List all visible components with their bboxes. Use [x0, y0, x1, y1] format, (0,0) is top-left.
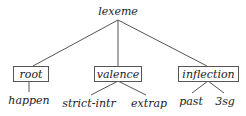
- edge-inflection-3sg: [208, 81, 224, 93]
- node-lexeme: lexeme: [98, 5, 138, 18]
- edge-lexeme-root: [33, 20, 118, 66]
- node-inflection-box: inflection: [179, 67, 239, 82]
- edge-valence-strict-intr: [91, 81, 118, 95]
- node-root-label: root: [20, 68, 44, 81]
- node-past: past: [179, 95, 203, 108]
- edge-lexeme-inflection: [118, 20, 207, 66]
- type-hierarchy-diagram: lexeme root valence inflection happen st…: [0, 0, 246, 116]
- node-inflection-label: inflection: [182, 68, 234, 81]
- node-happen: happen: [8, 94, 49, 107]
- node-extrap: extrap: [131, 97, 167, 110]
- node-valence-label: valence: [97, 68, 140, 81]
- node-strict-intr: strict-intr: [62, 97, 116, 110]
- edge-inflection-past: [192, 81, 208, 93]
- node-3sg: 3sg: [215, 95, 235, 108]
- node-valence-box: valence: [95, 67, 142, 82]
- edge-valence-extrap: [118, 81, 146, 95]
- node-root-box: root: [14, 67, 49, 82]
